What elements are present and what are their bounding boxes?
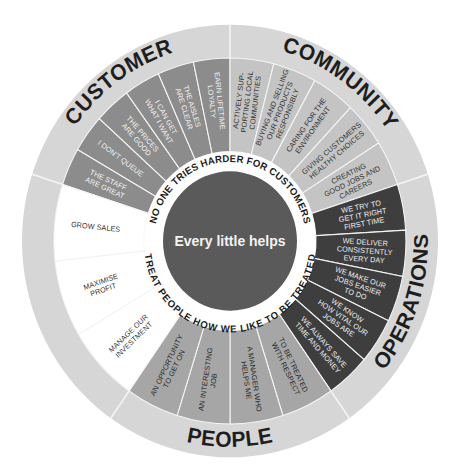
center-label: Every little helps [174, 233, 285, 249]
steering-wheel-diagram: CUSTOMERCOMMUNITYOPERATIONSPEOPLEFINANCE… [0, 0, 460, 476]
wheel-root: CUSTOMERCOMMUNITYOPERATIONSPEOPLEFINANCE… [22, 25, 438, 458]
